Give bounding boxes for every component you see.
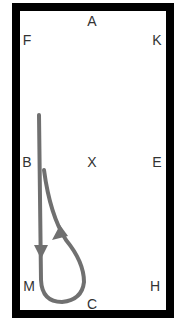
- movement-path: [0, 0, 178, 323]
- down-arrow-icon: [34, 245, 48, 259]
